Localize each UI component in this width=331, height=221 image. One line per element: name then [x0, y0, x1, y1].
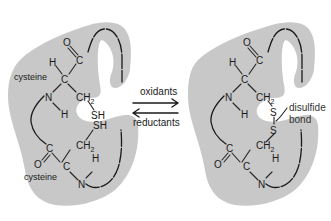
- left-arrow-icon: [133, 109, 178, 117]
- left-bottom-alpha-carbon: C: [63, 161, 70, 172]
- right-bottom-amide-hydrogen: H: [272, 153, 279, 164]
- left-bottom-oxygen: O: [34, 159, 42, 170]
- right-top-sulfur: S: [270, 107, 277, 118]
- left-bottom-sh: SH: [93, 120, 107, 131]
- right-bottom-sulfur: S: [270, 125, 277, 136]
- left-bottom-nitrogen: N: [78, 179, 85, 190]
- left-top-alpha-hydrogen: H: [49, 57, 56, 68]
- left-protein: O C H C N H CH2 SH cysteine SH CH2 C O C…: [8, 22, 138, 206]
- right-protein: O C H C N H CH2 S S CH2 C O C H N disulf…: [188, 22, 326, 206]
- reaction-arrows: oxidants reductants: [133, 86, 180, 128]
- right-top-oxygen: O: [243, 37, 251, 48]
- left-bottom-cysteine-label: cysteine: [24, 172, 57, 182]
- disulfide-label: disulfide: [289, 102, 326, 113]
- right-bottom-nitrogen: N: [258, 179, 265, 190]
- right-bottom-carbonyl-carbon: C: [226, 143, 233, 154]
- left-top-amide-hydrogen: H: [61, 109, 68, 120]
- left-bottom-amide-hydrogen: H: [92, 153, 99, 164]
- bond-label: bond: [289, 114, 311, 125]
- left-top-alpha-carbon: C: [61, 74, 68, 85]
- left-top-cysteine-label: cysteine: [14, 72, 47, 82]
- disulfide-bond-diagram: O C H C N H CH2 SH cysteine SH CH2 C O C…: [0, 0, 331, 221]
- left-top-carbonyl-carbon: C: [76, 55, 83, 66]
- right-top-amide-hydrogen: H: [241, 109, 248, 120]
- left-bottom-carbonyl-carbon: C: [46, 143, 53, 154]
- right-bottom-oxygen: O: [214, 159, 222, 170]
- right-top-alpha-carbon: C: [241, 74, 248, 85]
- left-top-nitrogen: N: [45, 92, 52, 103]
- right-arrow-icon: [133, 99, 178, 107]
- reductants-label: reductants: [133, 117, 180, 128]
- disulfide-leader-line: [276, 108, 287, 121]
- right-top-nitrogen: N: [225, 92, 232, 103]
- oxidants-label: oxidants: [140, 86, 177, 97]
- right-bottom-alpha-carbon: C: [243, 161, 250, 172]
- left-top-oxygen: O: [63, 37, 71, 48]
- right-top-carbonyl-carbon: C: [256, 55, 263, 66]
- right-top-alpha-hydrogen: H: [229, 57, 236, 68]
